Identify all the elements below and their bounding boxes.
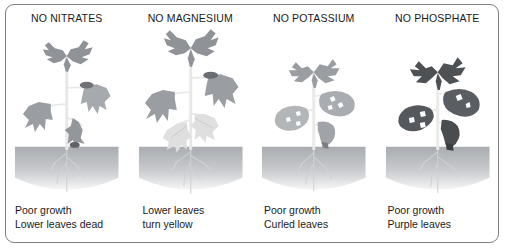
mid-right-leaf-curled bbox=[319, 91, 355, 116]
plant-svg-no-nitrates bbox=[5, 26, 129, 204]
mid-left-leaf-purple bbox=[398, 105, 434, 131]
plant-illustration-no-phosphate bbox=[376, 26, 500, 204]
top-leaf-cluster-purple bbox=[409, 57, 465, 90]
caption-line-2: turn yellow bbox=[143, 218, 205, 232]
plant-illustration-no-nitrates bbox=[5, 26, 129, 204]
mid-right-leaf bbox=[80, 82, 111, 114]
nutrient-deficiency-figure: NO NITRATES bbox=[0, 0, 505, 249]
panel-title-no-magnesium: NO MAGNESIUM bbox=[129, 12, 253, 24]
panel-title-no-potassium: NO POTASSIUM bbox=[252, 12, 376, 24]
mid-right-leaf bbox=[203, 72, 238, 108]
caption-line-1: Poor growth bbox=[15, 204, 72, 216]
caption-line-1: Poor growth bbox=[264, 204, 321, 216]
caption-line-2: Purple leaves bbox=[388, 218, 452, 232]
panel-row: NO NITRATES bbox=[5, 4, 499, 243]
mid-left-leaf bbox=[23, 102, 53, 132]
plant-svg-no-phosphate bbox=[376, 26, 500, 204]
caption-line-1: Poor growth bbox=[388, 204, 445, 216]
mid-right-leaf-purple bbox=[443, 89, 480, 117]
caption-no-nitrates: Poor growth Lower leaves dead bbox=[15, 204, 103, 231]
mid-left-leaf-curled bbox=[275, 106, 309, 131]
lower-leaf-purple bbox=[440, 120, 459, 151]
caption-line-2: Curled leaves bbox=[264, 218, 328, 232]
caption-line-1: Lower leaves bbox=[143, 204, 205, 216]
panel-no-phosphate: NO PHOSPHATE bbox=[376, 4, 500, 243]
panel-no-potassium: NO POTASSIUM bbox=[252, 4, 376, 243]
plant-svg-no-potassium bbox=[252, 26, 376, 204]
top-leaf-cluster bbox=[163, 29, 218, 67]
lower-leaf-curled bbox=[318, 121, 336, 148]
mid-left-leaf bbox=[144, 90, 176, 123]
caption-line-2: Lower leaves dead bbox=[15, 218, 103, 232]
panel-no-magnesium: NO MAGNESIUM bbox=[129, 4, 253, 243]
plant-illustration-no-magnesium bbox=[129, 26, 253, 204]
panel-title-no-nitrates: NO NITRATES bbox=[5, 12, 129, 24]
plant-illustration-no-potassium bbox=[252, 26, 376, 204]
panel-no-nitrates: NO NITRATES bbox=[5, 4, 129, 243]
caption-no-potassium: Poor growth Curled leaves bbox=[264, 204, 328, 231]
caption-no-magnesium: Lower leaves turn yellow bbox=[143, 204, 205, 231]
top-leaf-cluster bbox=[43, 40, 93, 72]
caption-no-phosphate: Poor growth Purple leaves bbox=[388, 204, 452, 231]
panel-title-no-phosphate: NO PHOSPHATE bbox=[376, 12, 500, 24]
plant-svg-no-magnesium bbox=[129, 26, 253, 204]
